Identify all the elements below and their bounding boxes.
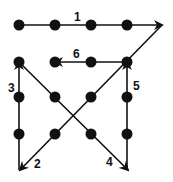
dot [86,57,97,68]
dot [14,57,25,68]
dot [86,92,97,103]
line-label-2: 2 [34,157,41,171]
dot [50,57,61,68]
dot [50,129,61,140]
dot-grid [14,20,133,140]
line-label-3: 3 [8,81,15,95]
dot [122,57,133,68]
dot [86,20,97,31]
line-label-6: 6 [73,47,80,61]
dot [122,92,133,103]
dot [50,20,61,31]
line-labels: 123456 [8,10,140,171]
line-label-4: 4 [106,155,113,169]
line-label-1: 1 [74,10,81,24]
dot [14,129,25,140]
dot-path-diagram: 123456 [0,0,173,182]
line-label-5: 5 [133,79,140,93]
dot [122,20,133,31]
dot [50,92,61,103]
dot [14,92,25,103]
diagram-canvas: 123456 [0,0,173,182]
dot [86,129,97,140]
dot [14,20,25,31]
dot [122,129,133,140]
